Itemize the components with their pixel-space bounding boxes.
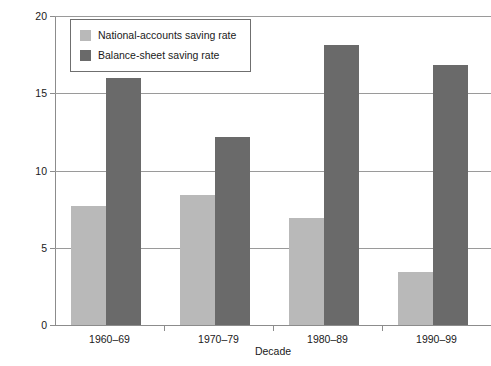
y-tick-mark bbox=[50, 171, 55, 172]
bar bbox=[180, 195, 215, 325]
legend-swatch-balance-sheet bbox=[80, 50, 91, 61]
x-tick-mark bbox=[382, 325, 383, 331]
x-tick-mark bbox=[164, 325, 165, 331]
y-tick-label: 15 bbox=[35, 88, 47, 99]
chart-legend: National-accounts saving rate Balance-sh… bbox=[70, 19, 251, 72]
x-tick-label: 1960–69 bbox=[89, 333, 130, 345]
x-tick-label: 1980–89 bbox=[307, 333, 348, 345]
bar bbox=[106, 78, 141, 325]
legend-swatch-national-accounts bbox=[80, 30, 91, 41]
bar bbox=[215, 137, 250, 325]
legend-label-balance-sheet: Balance-sheet saving rate bbox=[98, 50, 219, 61]
x-tick-mark bbox=[273, 325, 274, 331]
y-tick-label: 5 bbox=[41, 243, 47, 254]
bar bbox=[433, 65, 468, 325]
bar bbox=[289, 218, 324, 325]
y-tick-label: 0 bbox=[41, 320, 47, 331]
bar-chart: Saving rate (percent of income) 05101520… bbox=[0, 0, 491, 366]
bar bbox=[71, 206, 106, 325]
y-tick-label: 10 bbox=[35, 165, 47, 176]
legend-item: Balance-sheet saving rate bbox=[80, 47, 236, 64]
x-tick-label: 1990–99 bbox=[416, 333, 457, 345]
y-tick-mark bbox=[50, 16, 55, 17]
y-tick-mark bbox=[50, 325, 55, 326]
y-tick-mark bbox=[50, 93, 55, 94]
y-tick-label: 20 bbox=[35, 11, 47, 22]
bar bbox=[324, 45, 359, 325]
legend-label-national-accounts: National-accounts saving rate bbox=[98, 30, 236, 41]
bar bbox=[398, 272, 433, 325]
y-tick-mark bbox=[50, 248, 55, 249]
legend-item: National-accounts saving rate bbox=[80, 27, 236, 44]
x-axis-title: Decade bbox=[55, 345, 491, 357]
gridline bbox=[55, 16, 491, 17]
x-tick-label: 1970–79 bbox=[198, 333, 239, 345]
